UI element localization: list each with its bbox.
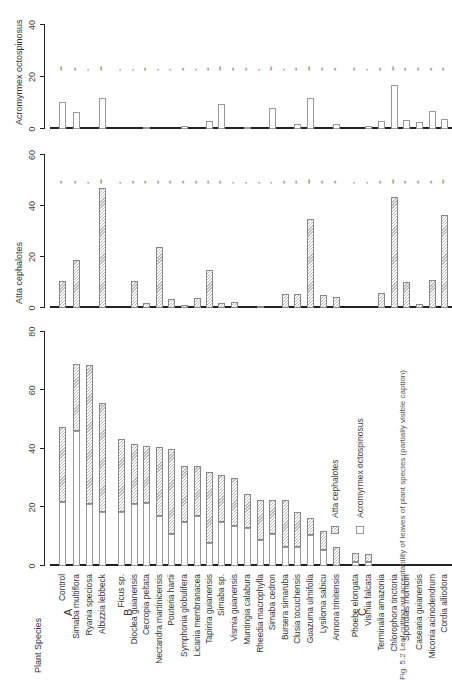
significance-marker: * [257, 70, 263, 71]
legend-label-atta: Atta cephalotes [330, 459, 340, 518]
bar-segment-atta [168, 449, 175, 534]
bar-atta [294, 294, 301, 308]
species-label: Symphonia globulifera [179, 574, 189, 678]
species-label: Vismia guianensis [229, 574, 239, 678]
significance-marker: ** [333, 68, 339, 71]
axis-tick-label: 40 [27, 15, 37, 35]
bar-atta [156, 247, 163, 308]
bar-segment-acromyrmex [59, 502, 66, 566]
axis-tick [40, 205, 45, 206]
bar-acromyrmex [218, 104, 225, 129]
axis-tick-label: 20 [27, 67, 37, 87]
bar-acromyrmex [378, 121, 385, 129]
bar-segment-atta [365, 554, 372, 561]
significance-marker: ** [181, 68, 187, 71]
bar-segment-acromyrmex [257, 540, 264, 566]
significance-marker: * [231, 183, 237, 184]
significance-marker: ** [73, 181, 79, 184]
bar-segment-atta [99, 403, 106, 511]
bar-atta [429, 280, 436, 308]
significance-marker: *** [307, 180, 313, 184]
bar-atta [231, 302, 238, 308]
bar-segment-atta [131, 444, 138, 504]
species-label: Miconia acinodendrum [427, 574, 437, 678]
bar-acromyrmex [307, 98, 314, 129]
bar-atta [403, 283, 410, 309]
species-label: Guazuma ulmifolia [305, 574, 315, 678]
bar-segment-atta [282, 500, 289, 547]
bar-segment-acromyrmex [244, 528, 251, 566]
bar-segment-acromyrmex [118, 512, 125, 566]
significance-marker: ** [168, 181, 174, 184]
bar-segment-atta [156, 447, 163, 516]
bar-segment-acromyrmex [168, 534, 175, 566]
group-label-c: C [356, 608, 368, 616]
axis-tick [40, 331, 45, 332]
axis-tick [40, 307, 45, 308]
bar-atta [257, 306, 264, 308]
significance-marker: * [156, 70, 162, 71]
axis-tick-label: 0 [27, 556, 37, 576]
significance-marker: *** [99, 180, 105, 184]
bar-segment-atta [59, 427, 66, 502]
bar-segment-atta [231, 478, 238, 526]
axis-tick-label: 40 [27, 439, 37, 459]
significance-marker: ** [429, 181, 435, 184]
bar-segment-acromyrmex [282, 547, 289, 566]
bar-acromyrmex [333, 124, 340, 129]
axis-tick [40, 448, 45, 449]
significance-marker: * [118, 70, 124, 71]
significance-marker: ** [378, 68, 384, 71]
bar-acromyrmex [206, 121, 213, 129]
bar-segment-acromyrmex [352, 562, 359, 566]
bar-segment-acromyrmex [206, 543, 213, 566]
significance-marker: *** [218, 67, 224, 71]
axis-tick [40, 389, 45, 390]
significance-marker: * [86, 70, 92, 71]
bar-segment-atta [320, 531, 327, 550]
bar-acromyrmex [99, 98, 106, 129]
category-baseline [50, 565, 452, 567]
significance-marker: ** [416, 181, 422, 184]
significance-marker: ** [206, 68, 212, 71]
hatched-swatch-icon [331, 526, 339, 534]
bar-acromyrmex [59, 102, 66, 129]
species-label: Pouteria hartii [166, 574, 176, 678]
significance-marker: ** [244, 68, 250, 71]
bar-segment-acromyrmex [99, 512, 106, 566]
bar-segment-atta [333, 547, 340, 566]
significance-marker: * [86, 183, 92, 184]
species-label: Bursera simaruba [280, 574, 290, 678]
species-label: Muntingia calabura [242, 574, 252, 678]
value-axis-title: Atta cephalotes [14, 242, 24, 304]
species-label: Ryania speciosa [84, 574, 94, 678]
significance-marker: ** [181, 181, 187, 184]
bar-segment-acromyrmex [218, 522, 225, 566]
significance-marker: *** [99, 67, 105, 71]
value-axis-line [44, 155, 45, 308]
legend-item-acro: Acromyrmex octospinosus [355, 418, 365, 534]
value-axis-line [44, 25, 45, 129]
bar-segment-atta [118, 439, 125, 512]
bar-acromyrmex [181, 126, 188, 129]
significance-marker: *** [307, 67, 313, 71]
bar-segment-acromyrmex [194, 516, 201, 566]
significance-marker: * [282, 70, 288, 71]
significance-marker: ** [403, 181, 409, 184]
significance-marker: * [131, 70, 137, 71]
significance-marker: * [118, 183, 124, 184]
bar-acromyrmex [429, 111, 436, 129]
bar-atta [441, 215, 448, 308]
significance-marker: ** [429, 68, 435, 71]
significance-marker: ** [403, 68, 409, 71]
bar-atta [168, 299, 175, 308]
significance-marker: * [352, 183, 358, 184]
bar-acromyrmex [294, 124, 301, 129]
significance-marker: *** [391, 180, 397, 184]
bar-atta [333, 297, 340, 308]
significance-marker: ** [294, 181, 300, 184]
species-label: Licania membranacea [192, 574, 202, 678]
bar-acromyrmex [365, 126, 372, 129]
bar-segment-atta [143, 446, 150, 503]
bar-segment-atta [206, 472, 213, 542]
